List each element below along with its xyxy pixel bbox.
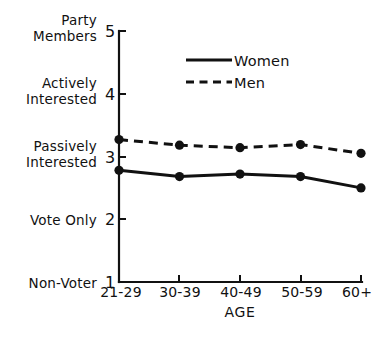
y-tick-label-3: 3 [105, 148, 115, 167]
y-tick-label-5: 5 [105, 22, 115, 41]
y-category-label-passively-interested-line1: Passively [34, 138, 97, 154]
data-point-men-50-59 [296, 140, 305, 149]
y-category-label-actively-interested-line1: Actively [42, 75, 97, 91]
x-tick-label-30-39: 30-39 [159, 284, 201, 300]
x-tick-label-50-59: 50-59 [281, 284, 323, 300]
data-point-men-30-39 [175, 141, 184, 150]
y-category-label-party-members-line2: Members [33, 28, 97, 44]
data-point-women-30-39 [175, 172, 184, 181]
y-tick-label-2: 2 [105, 210, 115, 229]
legend-label-women: Women [234, 53, 290, 69]
data-point-women-50-59 [296, 172, 305, 181]
data-point-women-60+ [356, 183, 365, 192]
y-category-label-party-members-line1: Party [61, 12, 97, 28]
line-chart-svg: Party Members Actively Interested Passiv… [0, 0, 382, 338]
y-category-label-passively-interested-line2: Interested [26, 154, 97, 170]
x-tick-label-40-49: 40-49 [220, 284, 262, 300]
data-point-men-60+ [356, 149, 365, 158]
y-category-label-non-voter: Non-Voter [29, 275, 98, 291]
chart-figure: Party Members Actively Interested Passiv… [0, 0, 382, 338]
x-axis-title: AGE [225, 304, 256, 320]
data-point-women-21-29 [114, 166, 123, 175]
data-point-men-40-49 [235, 143, 244, 152]
legend-label-men: Men [234, 75, 265, 91]
y-category-label-vote-only: Vote Only [30, 212, 97, 228]
x-tick-label-21-29: 21-29 [100, 284, 142, 300]
data-point-men-21-29 [114, 135, 123, 144]
x-tick-label-60plus: 60+ [342, 284, 372, 300]
y-tick-label-4: 4 [105, 85, 115, 104]
data-point-women-40-49 [235, 169, 244, 178]
y-category-label-actively-interested-line2: Interested [26, 91, 97, 107]
